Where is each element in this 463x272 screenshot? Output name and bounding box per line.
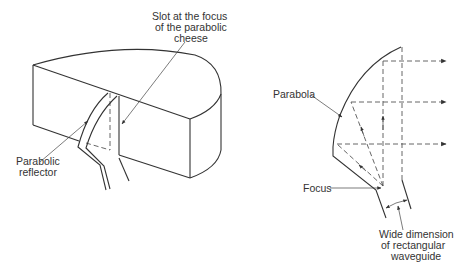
parabola-leader-arrow: [311, 95, 342, 117]
cheese-top-curve: [33, 49, 221, 94]
cheese-right-top-curve: [190, 94, 221, 119]
parabola-curve: [333, 47, 401, 147]
ray-diagonal-middle-arrow: [361, 127, 364, 136]
focus-label: Focus: [303, 182, 332, 194]
cheese-top-front-edge: [33, 65, 190, 119]
cheese-bottom-right-curve: [190, 150, 221, 178]
cheese-antenna-3d: Slot at the focus of the parabolic chees…: [16, 10, 227, 190]
waveguide-right-wall: [402, 180, 411, 209]
waveguide-right-edge: [119, 158, 129, 181]
ray-diagonal-bottom-arrow: [359, 165, 366, 171]
reflector-inner-curve: [86, 96, 117, 189]
waveguide-leader-arrow: [398, 206, 403, 230]
slot-leader-arrow: [122, 42, 185, 124]
diagram-canvas: Slot at the focus of the parabolic chees…: [0, 0, 463, 272]
slot-label-line3: cheese: [174, 32, 208, 44]
reflector-label-line2: reflector: [19, 166, 57, 178]
cheese-bottom-front-edge: [119, 155, 190, 178]
parabola-label: Parabola: [273, 88, 315, 100]
slot-bottom-dashed-line: [86, 143, 110, 150]
cheese-left-bottom-edge: [33, 125, 79, 141]
parabola-bottom-edge: [333, 147, 386, 218]
reflector-outer-curve: [78, 93, 108, 190]
waveguide-dimension-arrow-right: [396, 200, 407, 203]
waveguide-label-line3: waveguide: [390, 250, 441, 262]
cheese-cross-section: Parabola Focus Wide dimension of rectang…: [273, 47, 454, 262]
waveguide-dimension-arrow-left: [386, 203, 396, 208]
